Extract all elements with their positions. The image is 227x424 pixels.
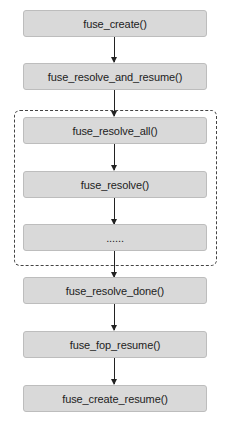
node-label: fuse_resolve_done()	[66, 285, 164, 297]
node-label: fuse_resolve_and_resume()	[48, 71, 182, 83]
node-label: ......	[106, 232, 124, 244]
node-fuse-resolve-done: fuse_resolve_done()	[23, 277, 207, 304]
node-fuse-resolve-and-resume: fuse_resolve_and_resume()	[23, 63, 207, 90]
node-label: fuse_create_resume()	[62, 393, 168, 405]
arrow-icon	[114, 198, 115, 224]
node-fuse-resolve-all: fuse_resolve_all()	[23, 117, 207, 144]
arrow-icon	[114, 251, 115, 277]
arrow-icon	[114, 37, 115, 62]
node-fuse-resolve: fuse_resolve()	[23, 171, 207, 198]
node-ellipsis: ......	[23, 224, 207, 251]
node-fuse-create-resume: fuse_create_resume()	[23, 385, 207, 412]
node-label: fuse_fop_resume()	[70, 339, 161, 351]
arrow-icon	[114, 358, 115, 384]
node-label: fuse_create()	[83, 18, 147, 30]
node-fuse-create: fuse_create()	[23, 10, 207, 37]
node-fuse-fop-resume: fuse_fop_resume()	[23, 331, 207, 358]
node-label: fuse_resolve_all()	[72, 125, 157, 137]
arrow-icon	[114, 144, 115, 170]
node-label: fuse_resolve()	[81, 179, 149, 191]
arrow-icon	[114, 304, 115, 330]
